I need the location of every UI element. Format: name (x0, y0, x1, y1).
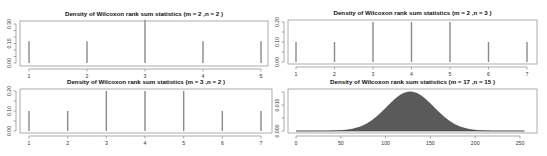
x-tick-label: 4 (410, 71, 413, 77)
x-tick-label: 4 (144, 140, 147, 146)
x-tick-label: 150 (426, 140, 435, 146)
x-tick-label: 100 (381, 140, 390, 146)
chart-title: Density of Wilcoxon rank sum statistics … (333, 9, 491, 16)
x-tick-label: 6 (487, 71, 490, 77)
wilcoxon-density-figure: Density of Wilcoxon rank sum statistics … (0, 0, 547, 156)
plot-frame (288, 20, 537, 64)
x-tick-label: 200 (471, 140, 480, 146)
x-tick-label: 1 (28, 140, 31, 146)
x-tick-label: 7 (260, 140, 263, 146)
y-tick-label: 0.000 (274, 124, 280, 137)
x-tick-label: 250 (516, 140, 525, 146)
chart-panel-m3-n2: Density of Wilcoxon rank sum statistics … (6, 78, 272, 146)
x-tick-label: 7 (526, 71, 529, 77)
x-tick-label: 3 (105, 140, 108, 146)
x-tick-label: 6 (221, 140, 224, 146)
x-tick-label: 0 (295, 140, 298, 146)
chart-panel-m17-n15: Density of Wilcoxon rank sum statistics … (274, 78, 537, 146)
y-tick-label: 0.20 (6, 86, 12, 96)
y-tick-label: 0.00 (274, 57, 280, 67)
x-tick-label: 1 (295, 71, 298, 77)
plot-frame (20, 89, 272, 133)
chart-panel-m2-n3: Density of Wilcoxon rank sum statistics … (274, 9, 537, 77)
y-tick-label: 0.10 (6, 106, 12, 116)
chart-title: Density of Wilcoxon rank sum statistics … (67, 78, 225, 85)
y-tick-label: 0.10 (274, 37, 280, 47)
y-tick-label: 0.15 (6, 38, 12, 48)
x-tick-label: 2 (333, 71, 336, 77)
y-tick-label: 0.010 (274, 98, 280, 111)
chart-title: Density of Wilcoxon rank sum statistics … (330, 78, 495, 85)
y-tick-label: 0.00 (6, 58, 12, 68)
x-tick-label: 2 (66, 140, 69, 146)
chart-title: Density of Wilcoxon rank sum statistics … (65, 10, 223, 17)
chart-panel-m2-n2: Density of Wilcoxon rank sum statistics … (6, 10, 268, 79)
x-tick-label: 5 (260, 73, 263, 79)
y-tick-label: 0.30 (6, 19, 12, 29)
x-tick-label: 5 (449, 71, 452, 77)
plot-frame (20, 21, 268, 66)
density-area (296, 92, 524, 131)
x-tick-label: 1 (28, 73, 31, 79)
x-tick-label: 50 (338, 140, 344, 146)
y-tick-label: 0.00 (6, 126, 12, 136)
x-tick-label: 3 (372, 71, 375, 77)
y-tick-label: 0.20 (274, 17, 280, 27)
x-tick-label: 5 (182, 140, 185, 146)
